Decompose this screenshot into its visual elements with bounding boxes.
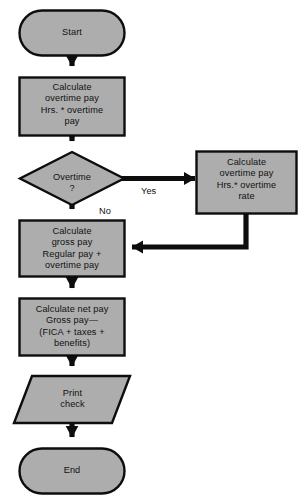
node-shape-calc-overtime-rate[interactable]	[197, 152, 297, 214]
node-shape-start[interactable]	[20, 11, 125, 56]
node-shape-print-check[interactable]	[14, 376, 130, 423]
node-shape-calc-gross-pay[interactable]	[20, 221, 125, 277]
flowchart-canvas: Start Calculate overtime pay Hrs. * over…	[0, 0, 306, 504]
branch-label-yes: Yes	[141, 186, 156, 196]
node-shape-end[interactable]	[20, 449, 125, 494]
flowchart-shapes-and-connectors	[0, 0, 306, 504]
node-shape-calc-net-pay[interactable]	[20, 299, 125, 356]
connector-overtime-rate-to-gross-pay	[132, 213, 246, 247]
node-shape-calc-overtime-pay[interactable]	[20, 78, 125, 136]
node-shape-overtime-decision[interactable]	[20, 152, 124, 205]
branch-label-no: No	[99, 206, 111, 216]
